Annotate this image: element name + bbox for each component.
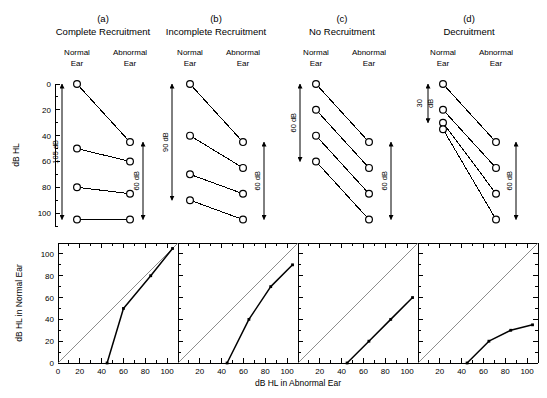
- a-bottom-y-ticklabel-0: 0: [50, 359, 55, 368]
- a-bottom-y-ticklabel-80: 80: [45, 272, 54, 281]
- b-top-abnormal-ear-header-2: Ear: [237, 59, 250, 68]
- a-top-abnormal-ear-header: Abnormal: [113, 48, 147, 57]
- c-top-title: No Recruitment: [309, 26, 375, 37]
- a-top-normal-ear-header: Normal: [64, 48, 90, 57]
- a-top-normal-point-3: [74, 216, 81, 223]
- d-top-connector-0: [445, 87, 493, 140]
- c-top-right-range-arrow-label: 60 dB: [380, 171, 389, 191]
- c-bottom-x-ticklabel-20: 20: [315, 367, 324, 376]
- c-bottom-data-point-2: [389, 318, 392, 321]
- d-top-connector-3: [445, 132, 495, 216]
- a-top-connector-1: [80, 149, 126, 160]
- d-top-normal-point-3: [440, 126, 447, 133]
- a-bottom-x-ticklabel-20: 20: [75, 367, 84, 376]
- a-bottom-x-ticklabel-80: 80: [141, 367, 150, 376]
- d-bottom-x-ticklabel-60: 60: [479, 367, 488, 376]
- x-axis-label: dB HL in Abnormal Ear: [255, 378, 341, 388]
- a-bottom-y-ticklabel-60: 60: [45, 294, 54, 303]
- b-bottom-x-ticklabel-80: 80: [261, 367, 270, 376]
- b-top-right-range-arrow-label: 60 dB: [253, 171, 262, 191]
- b-top-left-range-arrow-label: 90 dB: [161, 132, 170, 152]
- c-top-connector-0: [318, 87, 366, 140]
- d-bottom-data-point-3: [531, 323, 534, 326]
- b-bottom-x-ticklabel-60: 60: [239, 367, 248, 376]
- c-top-normal-point-1: [313, 106, 320, 113]
- d-top-normal-point-2: [440, 119, 447, 126]
- c-top-abnormal-point-1: [366, 165, 373, 172]
- c-bottom-x-ticklabel-80: 80: [381, 367, 390, 376]
- b-bottom-x-ticklabel-20: 20: [195, 367, 204, 376]
- a-bottom-data-point-1: [122, 307, 125, 310]
- d-top-abnormal-point-0: [493, 139, 500, 146]
- figure-canvas: (a)Complete RecruitmentNormalEarAbnormal…: [0, 0, 547, 398]
- c-top-panel-letter: (c): [336, 13, 347, 24]
- a-top-y-ticklabel-40: 40: [42, 132, 51, 141]
- a-top-y-ticklabel-80: 80: [42, 183, 51, 192]
- a-bottom-x-ticklabel-0: 0: [56, 367, 61, 376]
- a-bottom-x-ticklabel-40: 40: [97, 367, 106, 376]
- b-bottom-data-curve: [227, 265, 292, 363]
- c-top-left-range-arrow-label: 60 dB: [289, 113, 298, 133]
- d-bottom-x-ticklabel-40: 40: [457, 367, 466, 376]
- c-top-normal-ear-header-2: Ear: [310, 59, 323, 68]
- a-top-title: Complete Recruitment: [56, 26, 151, 37]
- a-bottom-data-point-2: [149, 274, 152, 277]
- b-bottom-data-point-2: [269, 285, 272, 288]
- b-top-connector-1: [193, 137, 240, 166]
- c-top-abnormal-point-2: [366, 190, 373, 197]
- a-bottom-y-ticklabel-100: 100: [41, 250, 55, 259]
- a-bottom-y-ticklabel-20: 20: [45, 337, 54, 346]
- c-top-normal-ear-header: Normal: [303, 48, 329, 57]
- a-top-normal-point-1: [74, 145, 81, 152]
- d-top-right-range-arrow-label: 60 dB: [505, 171, 514, 191]
- d-top-normal-ear-header-2: Ear: [437, 59, 450, 68]
- d-bottom-data-point-1: [488, 340, 491, 343]
- d-top-normal-ear-header: Normal: [430, 48, 456, 57]
- b-top-abnormal-ear-header: Abnormal: [226, 48, 260, 57]
- d-top-left-range-arrow-label-2: dB: [426, 99, 435, 108]
- d-top-abnormal-ear-header: Abnormal: [479, 48, 513, 57]
- b-bottom-x-ticklabel-40: 40: [217, 367, 226, 376]
- b-top-normal-point-2: [187, 171, 194, 178]
- a-bottom-x-ticklabel-60: 60: [119, 367, 128, 376]
- b-top-normal-point-0: [187, 81, 194, 88]
- b-top-normal-ear-header-2: Ear: [184, 59, 197, 68]
- a-top-abnormal-point-0: [127, 139, 134, 146]
- b-bottom-data-point-1: [248, 318, 251, 321]
- c-top-abnormal-ear-header: Abnormal: [352, 48, 386, 57]
- d-top-abnormal-point-2: [493, 190, 500, 197]
- a-bottom-data-point-0: [106, 362, 109, 365]
- d-bottom-x-ticklabel-20: 20: [435, 367, 444, 376]
- d-top-title: Decruitment: [443, 26, 495, 37]
- b-top-normal-ear-header: Normal: [177, 48, 203, 57]
- b-top-title: Incomplete Recruitment: [166, 26, 267, 37]
- c-top-abnormal-point-0: [366, 139, 373, 146]
- a-top-connector-2: [80, 188, 126, 194]
- b-top-abnormal-point-0: [240, 139, 247, 146]
- c-bottom-data-point-1: [368, 340, 371, 343]
- audiogram-recruitment-figure: (a)Complete RecruitmentNormalEarAbnormal…: [0, 0, 547, 398]
- a-top-y-ticklabel-0: 0: [47, 80, 52, 89]
- a-bottom-y-axis-label: dB HL in Normal Ear: [14, 264, 24, 342]
- b-top-normal-point-3: [187, 197, 194, 204]
- a-bottom-unity-diagonal: [58, 243, 178, 363]
- c-top-connector-1: [318, 112, 366, 165]
- d-bottom-data-curve: [467, 325, 532, 363]
- c-top-connector-3: [318, 164, 366, 217]
- c-top-normal-point-2: [313, 132, 320, 139]
- c-bottom-data-point-3: [411, 296, 414, 299]
- c-bottom-unity-diagonal: [298, 243, 418, 363]
- d-top-abnormal-ear-header-2: Ear: [490, 59, 503, 68]
- b-top-abnormal-point-3: [240, 216, 247, 223]
- a-top-abnormal-point-3: [127, 216, 134, 223]
- a-top-normal-ear-header-2: Ear: [71, 59, 84, 68]
- a-top-normal-point-0: [74, 81, 81, 88]
- a-top-abnormal-ear-header-2: Ear: [124, 59, 137, 68]
- a-top-y-axis-label: dB HL: [11, 143, 21, 167]
- a-top-panel-letter: (a): [97, 13, 109, 24]
- c-bottom-data-point-0: [346, 362, 349, 365]
- a-top-right-range-arrow-label: 60 dB: [132, 171, 141, 191]
- c-top-normal-point-0: [313, 81, 320, 88]
- d-top-left-range-arrow-label: 30: [415, 99, 424, 107]
- d-top-abnormal-point-1: [493, 165, 500, 172]
